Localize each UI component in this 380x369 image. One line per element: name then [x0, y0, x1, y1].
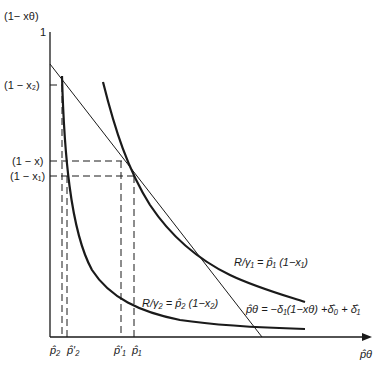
y-axis-top-tick: 1	[40, 26, 46, 38]
diagram-canvas: (1− xθ) 1 (1 − x₂) (1 − x) (1 − x₁) p̂₂ …	[0, 0, 380, 369]
y-axis-label: (1− xθ)	[4, 10, 39, 22]
x-tick-p2: p̂₂	[49, 344, 61, 356]
x-tick-p1: p̂₁	[131, 344, 142, 356]
label-r-gamma2: R/γ₂ = p̂₂ (1−x₂)	[142, 297, 218, 309]
label-r-gamma1: R/γ₁ = p̂₁ (1−x₁)	[234, 256, 308, 268]
x-tick-p1-prime: p̂′₁	[113, 344, 126, 356]
x-axis-arrow-icon	[362, 333, 372, 341]
curve-r-gamma1	[103, 82, 305, 302]
y-tick-1-x: (1 − x)	[12, 155, 43, 167]
y-tick-1-x2: (1 − x₂)	[4, 79, 40, 91]
x-tick-p2-prime: p̂′₂	[66, 344, 80, 356]
y-tick-1-x1: (1 − x₁)	[10, 170, 45, 182]
x-axis-label: p̂θ	[359, 348, 372, 360]
label-budget-line: p̂θ = −δ₁(1−xθ) +δ̂₀ + δ̂₁	[245, 303, 361, 315]
